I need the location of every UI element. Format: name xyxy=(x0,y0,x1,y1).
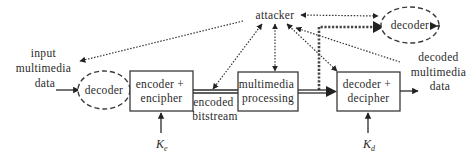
attacker-upper-decoder-arrow xyxy=(301,15,378,16)
key-e-label: Ke xyxy=(155,137,168,153)
bitstream-label: encoded bitstream xyxy=(192,96,238,122)
attacker-to-input-arrow xyxy=(80,21,243,61)
attacker-label: attacker xyxy=(256,9,295,21)
decoder-box-label: decoder + decipher xyxy=(343,78,395,105)
multimedia-security-diagram: attacker decoder input multimedia data d… xyxy=(0,0,473,156)
encoder-encipher-box xyxy=(130,71,193,111)
output-data-label: decoded multimedia data xyxy=(411,51,470,92)
encoder-label: encoder + encipher xyxy=(136,78,188,105)
processed-arrowhead-icon xyxy=(326,86,337,97)
processing-label: multimedia processing xyxy=(239,78,298,105)
attacker-decoder-box-arrow xyxy=(287,24,337,71)
attacker-decoder-label: decoder xyxy=(391,19,430,31)
key-d-label: Kd xyxy=(362,137,376,153)
input-decoder-label: decoder xyxy=(85,84,124,96)
input-data-label: input multimedia data xyxy=(16,47,75,89)
